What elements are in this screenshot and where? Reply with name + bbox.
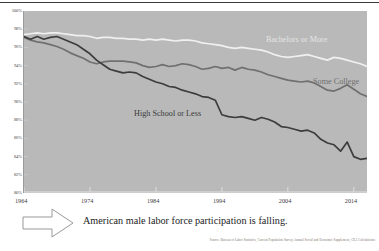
y-axis-tick-label: 88% (14, 117, 22, 122)
y-axis-tick-label: 82% (14, 172, 22, 177)
right-arrow-icon (22, 208, 74, 238)
caption-text: American male labor force participation … (83, 215, 288, 226)
x-axis-tick-label: 2014 (345, 197, 357, 204)
top-divider (0, 2, 379, 3)
x-axis-tick-label: 1964 (15, 197, 27, 204)
x-axis-tick-label: 1994 (213, 197, 225, 204)
source-note: Source: Bureau of Labor Statistics, Curr… (210, 238, 375, 242)
caption-row: American male labor force participation … (0, 207, 379, 239)
x-axis-tick-label: 1984 (147, 197, 159, 204)
plot-area: Bachelors or More Some College High Scho… (24, 11, 367, 193)
x-axis-tick-label: 2004 (279, 197, 291, 204)
series-label-bachelors: Bachelors or More (266, 35, 327, 44)
chart-container: 100%98%96%94%92%90%88%86%84%82%80% Bache… (0, 6, 379, 198)
y-axis-tick-label: 92% (14, 81, 22, 86)
y-axis: 100%98%96%94%92%90%88%86%84%82%80% (0, 6, 24, 198)
y-axis-tick-label: 86% (14, 135, 22, 140)
y-axis-tick-label: 98% (14, 26, 22, 31)
x-axis-tick-label: 1974 (81, 197, 93, 204)
y-axis-tick-label: 100% (12, 8, 22, 13)
series-label-high-school: High School or Less (134, 109, 201, 118)
series-label-some-college: Some College (313, 77, 359, 86)
y-axis-tick-label: 84% (14, 154, 22, 159)
series-line (24, 37, 367, 96)
y-axis-tick-label: 96% (14, 44, 22, 49)
y-axis-tick-label: 90% (14, 99, 22, 104)
y-axis-tick-label: 94% (14, 63, 22, 68)
